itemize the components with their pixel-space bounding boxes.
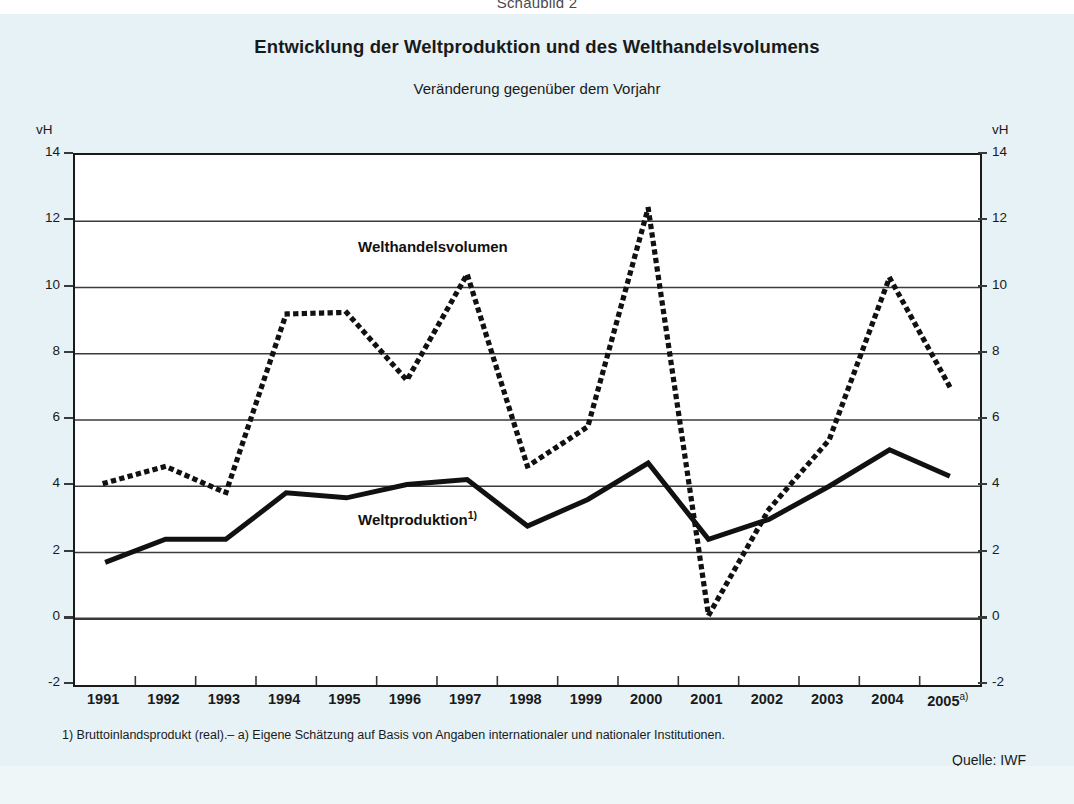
x-axis-tick-2005: 2005a)	[903, 691, 993, 709]
footnote-text: 1) Bruttoinlandsprodukt (real).– a) Eige…	[62, 728, 725, 742]
x-axis-tick-label: 2000	[630, 691, 662, 707]
y-axis-tick-right-8: 8	[992, 343, 1022, 358]
chart-subtitle: Veränderung gegenüber dem Vorjahr	[0, 80, 1074, 97]
plot-area	[73, 153, 982, 687]
y-axis-tick-left--2: -2	[30, 674, 60, 689]
x-axis-tick-footnote-ref: a)	[960, 691, 969, 702]
series-label-weltproduktion: Weltproduktion1)	[358, 509, 477, 528]
y-axis-tick-mark	[64, 285, 73, 287]
series-label-weltproduktion-text: Weltproduktion	[358, 511, 468, 528]
y-axis-tick-left-2: 2	[30, 542, 60, 557]
y-axis-unit-right: vH	[992, 122, 1009, 137]
y-axis-tick-right-6: 6	[992, 409, 1022, 424]
y-axis-tick-right-12: 12	[992, 210, 1022, 225]
x-axis-tick-label: 2001	[690, 691, 722, 707]
y-axis-tick-right-10: 10	[992, 277, 1022, 292]
x-axis-tick-label: 2004	[871, 691, 903, 707]
series-line-welthandelsvolumen	[105, 208, 950, 615]
y-axis-tick-mark	[978, 351, 987, 353]
y-axis-tick-mark	[978, 152, 987, 154]
y-axis-tick-mark	[978, 285, 987, 287]
y-axis-tick-right--2: -2	[992, 674, 1022, 689]
x-axis-tick-label: 1994	[268, 691, 300, 707]
y-axis-tick-mark	[978, 550, 987, 552]
schaubild-number: Schaubild 2	[0, 0, 1074, 11]
y-axis-tick-left-12: 12	[30, 210, 60, 225]
series-label-welthandelsvolumen: Welthandelsvolumen	[358, 238, 508, 255]
y-axis-tick-right-2: 2	[992, 542, 1022, 557]
x-axis-tick-label: 1991	[87, 691, 119, 707]
y-axis-tick-left-4: 4	[30, 475, 60, 490]
y-axis-tick-mark	[64, 152, 73, 154]
y-axis-tick-mark	[978, 616, 987, 619]
x-axis-tick-label: 2005	[927, 693, 959, 709]
y-axis-tick-right-4: 4	[992, 475, 1022, 490]
y-axis-tick-mark	[64, 351, 73, 353]
chart-page: Schaubild 2 Entwicklung der Weltprodukti…	[0, 0, 1074, 804]
y-axis-tick-right-0: 0	[992, 608, 1022, 623]
y-axis-tick-mark	[978, 218, 987, 220]
x-axis-tick-label: 2002	[751, 691, 783, 707]
scan-bottom-strip	[0, 766, 1074, 804]
x-axis-tick-label: 1993	[208, 691, 240, 707]
y-axis-tick-mark	[978, 483, 987, 485]
y-axis-tick-mark	[978, 682, 987, 684]
y-axis-tick-mark	[64, 218, 73, 220]
y-axis-tick-mark	[64, 616, 73, 619]
x-axis-tick-label: 2003	[811, 691, 843, 707]
x-axis-tick-label: 1997	[449, 691, 481, 707]
y-axis-tick-right-14: 14	[992, 144, 1022, 159]
y-axis-unit-left: vH	[36, 122, 53, 137]
y-axis-tick-left-0: 0	[30, 608, 60, 623]
x-axis-tick-label: 1998	[509, 691, 541, 707]
y-axis-tick-left-6: 6	[30, 409, 60, 424]
chart-canvas	[75, 155, 980, 685]
chart-title: Entwicklung der Weltproduktion und des W…	[0, 36, 1074, 58]
y-axis-tick-left-8: 8	[30, 343, 60, 358]
x-axis-tick-label: 1999	[570, 691, 602, 707]
y-axis-tick-mark	[64, 550, 73, 552]
x-axis-tick-label: 1996	[389, 691, 421, 707]
y-axis-tick-left-14: 14	[30, 144, 60, 159]
x-axis-tick-label: 1992	[147, 691, 179, 707]
y-axis-tick-mark	[64, 417, 73, 419]
series-label-weltproduktion-footnote-ref: 1)	[468, 509, 477, 521]
y-axis-tick-mark	[64, 682, 73, 684]
y-axis-tick-mark	[978, 417, 987, 419]
x-axis-tick-label: 1995	[328, 691, 360, 707]
y-axis-tick-mark	[64, 483, 73, 485]
y-axis-tick-left-10: 10	[30, 277, 60, 292]
